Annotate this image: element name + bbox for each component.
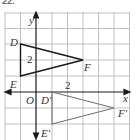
vertex-label-F-prime: F' xyxy=(117,107,128,119)
origin-label: O xyxy=(26,94,34,106)
coordinate-plane-diagram: 22. y x O 2 2 D E F D' E' F' xyxy=(0,0,137,140)
vertex-label-E: E xyxy=(9,78,17,90)
vertex-label-E-prime: E' xyxy=(40,127,51,139)
y-tick-label: 2 xyxy=(27,53,33,65)
vertex-label-D: D xyxy=(9,36,18,48)
vertex-label-D-prime: D' xyxy=(40,94,52,106)
exercise-number: 22. xyxy=(2,0,15,6)
x-tick-label: 2 xyxy=(65,79,71,91)
x-axis-label: x xyxy=(122,92,128,104)
grid xyxy=(5,12,130,140)
y-axis-arrow-down-icon xyxy=(34,133,39,139)
y-axis-label: y xyxy=(28,14,34,26)
vertex-label-F: F xyxy=(83,61,91,73)
y-axis xyxy=(34,12,39,139)
x-axis-arrow-left-icon xyxy=(5,90,11,95)
